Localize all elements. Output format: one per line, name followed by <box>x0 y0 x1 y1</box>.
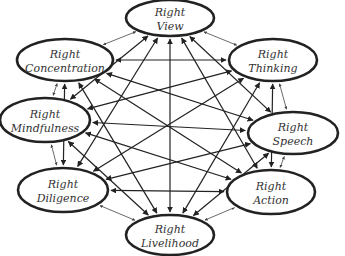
node-label-line1: Right <box>49 48 81 61</box>
node-right-view: RightView <box>126 0 214 36</box>
arrow-mindfulness-concentration <box>53 84 57 96</box>
path-nodes: RightViewRightThinkingRightSpeechRightAc… <box>0 0 338 255</box>
arrow-action-livelihood <box>205 207 235 220</box>
arrow-thinking-speech <box>279 84 286 110</box>
node-right-action: RightAction <box>227 170 315 214</box>
arrow-action-diligence <box>111 190 224 191</box>
node-label-line2: View <box>156 20 184 33</box>
node-label-line1: Right <box>257 48 289 61</box>
node-label-line2: Livelihood <box>140 237 199 250</box>
arrow-action-mindfulness <box>86 133 231 179</box>
node-right-livelihood: RightLivelihood <box>126 215 214 255</box>
node-right-diligence: RightDiligence <box>18 168 108 212</box>
node-label-line2: Mindfulness <box>10 122 80 135</box>
node-right-thinking: RightThinking <box>229 39 317 81</box>
node-right-mindfulness: RightMindfulness <box>0 98 90 142</box>
arrow-speech-action <box>280 157 284 168</box>
node-right-concentration: RightConcentration <box>17 39 113 81</box>
node-label-line1: Right <box>29 108 61 121</box>
node-label-line1: Right <box>47 178 79 191</box>
node-label-line1: Right <box>277 121 309 134</box>
arrow-livelihood-diligence <box>100 206 135 221</box>
arrow-speech-concentration <box>107 73 253 120</box>
arrow-view-concentration <box>103 32 136 45</box>
node-label-line2: Speech <box>273 135 314 148</box>
eightfold-path-diagram: RightViewRightThinkingRightSpeechRightAc… <box>0 0 345 256</box>
node-label-line2: Thinking <box>248 62 297 75</box>
node-label-line2: Diligence <box>36 192 90 205</box>
arrow-view-thinking <box>204 32 237 45</box>
arrow-diligence-mindfulness <box>51 145 56 166</box>
node-label-line1: Right <box>154 6 186 19</box>
node-label-line2: Concentration <box>25 62 105 75</box>
node-label-line2: Action <box>252 194 289 207</box>
arrow-speech-diligence <box>106 144 250 180</box>
node-label-line1: Right <box>255 180 287 193</box>
node-right-speech: RightSpeech <box>248 112 338 154</box>
node-label-line1: Right <box>154 223 186 236</box>
